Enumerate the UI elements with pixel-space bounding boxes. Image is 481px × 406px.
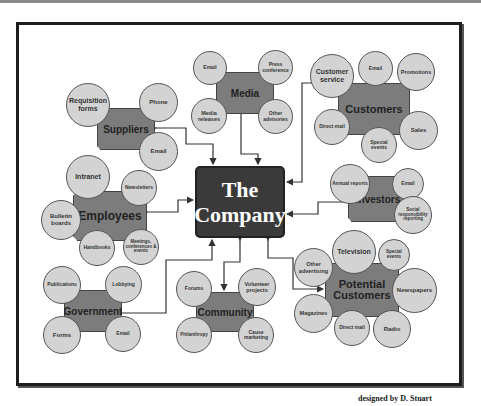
- circle-media-email: Email: [193, 51, 227, 85]
- circle-requisition-forms: Requisition forms: [66, 83, 110, 127]
- circle-magazines: Magazines: [294, 294, 333, 333]
- circle-potential-special-events: Special events: [378, 239, 410, 271]
- circle-government-email: Email: [105, 316, 141, 352]
- circle-radio: Radio: [373, 310, 411, 348]
- circle-bulletin-boards: Bulletin boards: [41, 200, 81, 240]
- circle-forums: Forums: [176, 271, 212, 307]
- circle-television: Television: [332, 230, 376, 274]
- circle-volunteer-projects: Volunteer projects: [238, 268, 276, 306]
- circle-publications: Publications: [43, 266, 81, 304]
- circle-newsletters: Newsletters: [121, 170, 157, 206]
- circle-meetings: Meetings, conferences & events: [123, 229, 159, 265]
- circle-media-releases: Media releases: [191, 98, 227, 134]
- circle-phone: Phone: [139, 83, 178, 122]
- circle-intranet: Intranet: [66, 155, 110, 199]
- circle-customers-direct-mail: Direct mail: [314, 109, 350, 145]
- circle-customers-email: Email: [358, 51, 393, 86]
- circle-lobbying: Lobbying: [105, 266, 142, 303]
- circle-annual-reports: Annual reports: [330, 164, 370, 204]
- circle-customer-service: Customer service: [310, 54, 354, 98]
- circle-potential-direct-mail: Direct mail: [334, 310, 370, 346]
- company-title-line1: The: [222, 177, 259, 202]
- circle-forms: Forms: [43, 316, 81, 354]
- circle-customers-special-events: Special events: [361, 127, 397, 163]
- circle-promotions: Promotions: [397, 53, 435, 91]
- designer-credit: designed by D. Stuart: [358, 394, 432, 403]
- circle-supplier-email: Email: [139, 132, 178, 171]
- circle-cause-marketing: Cause marketing: [238, 317, 274, 353]
- circle-other-advertising: Other advertising: [294, 248, 333, 287]
- circle-other-advisories: Other advisories: [258, 99, 293, 134]
- circle-investors-email: Email: [392, 168, 424, 200]
- circle-press-conference: Press conference: [258, 50, 293, 85]
- circle-handbooks: Handbooks: [79, 230, 115, 266]
- circle-social-responsibility: Social responsibility reporting: [394, 196, 432, 234]
- circle-newspapers: Newspapers: [392, 268, 437, 313]
- circle-sales: Sales: [399, 111, 438, 150]
- the-company-box: The Company: [195, 166, 285, 238]
- circle-philanthropy: Philanthropy: [176, 317, 212, 353]
- company-title-line2: Company: [194, 202, 286, 227]
